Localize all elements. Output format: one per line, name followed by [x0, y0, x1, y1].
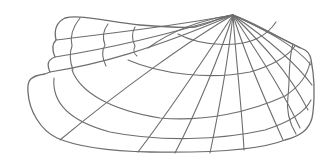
- radial-rib-1: [60, 15, 233, 140]
- growth-line-3: [72, 62, 310, 119]
- radial-rib-4: [210, 15, 233, 153]
- growth-line-4: [54, 78, 311, 139]
- radial-rib-3: [175, 15, 233, 153]
- radial-rib-5: [233, 15, 244, 150]
- wing-line-1: [56, 15, 233, 40]
- wing-partition-1: [70, 18, 80, 70]
- radial-rib-10: [233, 15, 311, 65]
- growth-line-2: [128, 46, 295, 76]
- wing-line-2: [55, 15, 233, 57]
- shell-drawing: [0, 0, 332, 168]
